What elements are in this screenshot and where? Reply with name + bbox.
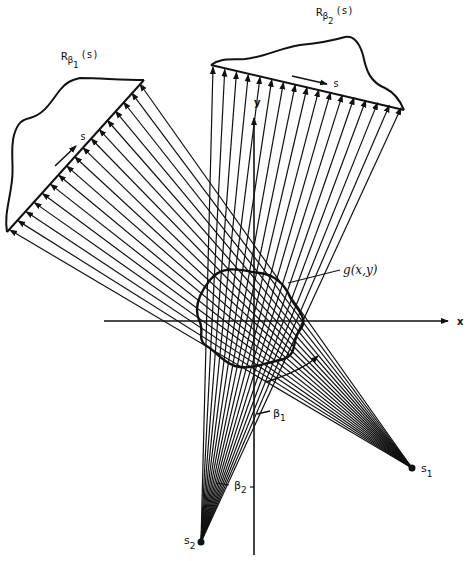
ray bbox=[67, 166, 412, 468]
source-2-dot bbox=[198, 539, 205, 546]
s-arrow-1 bbox=[55, 146, 76, 166]
y-axis-label: y bbox=[254, 97, 261, 108]
ray bbox=[26, 212, 412, 468]
s-axis-1-label: s bbox=[80, 131, 86, 142]
source-2-label: s2 bbox=[184, 534, 195, 551]
s-axis-2-label: s bbox=[333, 78, 339, 89]
s-arrow-2 bbox=[292, 76, 327, 84]
fan-beam-2-rays bbox=[201, 67, 401, 542]
projection-1-label: Rβ1(s) bbox=[61, 49, 99, 70]
ray bbox=[99, 130, 412, 468]
projection-2 bbox=[211, 37, 404, 110]
ray bbox=[201, 108, 401, 542]
x-axis-label: x bbox=[457, 316, 464, 327]
ray bbox=[83, 148, 412, 468]
ray bbox=[116, 111, 412, 468]
source-1-dot bbox=[409, 465, 416, 472]
fan-beam-diagram: Rβ1(s) Rβ2(s) s s g(x,y) x y β1 β2 s1 s2 bbox=[0, 0, 471, 561]
object-label: g(x,y) bbox=[343, 263, 378, 277]
beta2-label: β2 bbox=[234, 479, 247, 495]
projection-2-label: Rβ2(s) bbox=[316, 5, 354, 26]
beta1-label: β1 bbox=[273, 407, 286, 423]
source-1-label: s1 bbox=[421, 462, 432, 479]
